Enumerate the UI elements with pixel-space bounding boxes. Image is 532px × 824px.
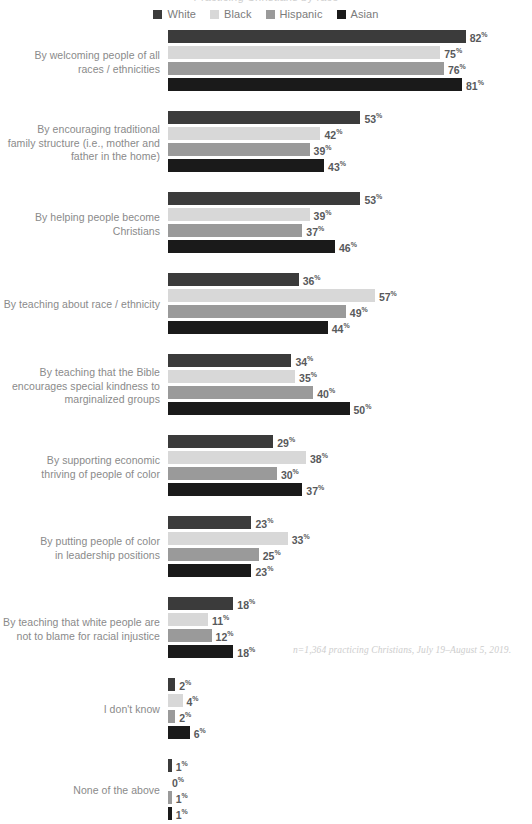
bar-row[interactable]: 2% <box>168 710 532 723</box>
bar-row[interactable]: 18% <box>168 597 532 610</box>
category-label: None of the above <box>0 784 160 798</box>
bar-chart-plot: By welcoming people of allraces / ethnic… <box>0 30 532 824</box>
bar-value-label: 34% <box>295 352 313 369</box>
percent-sign: % <box>181 792 187 799</box>
bar-row[interactable]: 11% <box>168 613 532 626</box>
bar-value-label: 37% <box>306 481 324 498</box>
bar-value-label: 11% <box>212 611 229 628</box>
bar-row[interactable]: 39% <box>168 208 532 221</box>
bar-value-number: 37 <box>306 226 318 238</box>
bar-row[interactable]: 33% <box>168 532 532 545</box>
bar-value-number: 18 <box>237 647 249 659</box>
bar-value-label: 33% <box>292 530 310 547</box>
bar-value-number: 46 <box>339 242 351 254</box>
legend-item-hispanic[interactable]: Hispanic <box>266 8 323 20</box>
bar-value-label: 25% <box>263 546 281 563</box>
bar-value-label: 1% <box>176 789 188 806</box>
bar-row[interactable]: 34% <box>168 354 532 367</box>
bar-asian <box>168 645 233 658</box>
category-label-line: in leadership positions <box>0 549 160 563</box>
bar-row[interactable]: 39% <box>168 143 532 156</box>
bar-row[interactable]: 30% <box>168 467 532 480</box>
bar-value-label: 23% <box>255 562 273 579</box>
category-label-line: Christians <box>0 225 160 239</box>
bar-row[interactable]: 40% <box>168 386 532 399</box>
bar-row[interactable]: 46% <box>168 240 532 253</box>
bar-row[interactable]: 2% <box>168 678 532 691</box>
bar-value-number: 81 <box>466 80 478 92</box>
bar-row[interactable]: 4% <box>168 694 532 707</box>
legend-swatch-icon <box>266 10 275 19</box>
bar-row[interactable]: 6% <box>168 726 532 739</box>
bar-row[interactable]: 82% <box>168 30 532 43</box>
bar-row[interactable]: 23% <box>168 564 532 577</box>
bar-asian <box>168 807 172 820</box>
bar-row[interactable]: 81% <box>168 78 532 91</box>
bar-hispanic <box>168 629 212 642</box>
bar-row[interactable]: 1% <box>168 807 532 820</box>
legend-item-white[interactable]: White <box>153 8 196 20</box>
bar-value-label: 2% <box>179 676 191 693</box>
bar-value-number: 11 <box>212 615 223 627</box>
bar-black <box>168 46 440 59</box>
bar-value-label: 82% <box>470 28 488 45</box>
percent-sign: % <box>307 355 313 362</box>
bar-white <box>168 111 360 124</box>
bar-row[interactable]: 37% <box>168 483 532 496</box>
bar-row[interactable]: 37% <box>168 224 532 237</box>
bar-row[interactable]: 76% <box>168 62 532 75</box>
bar-hispanic <box>168 143 310 156</box>
bar-black <box>168 370 295 383</box>
bar-group: By helping people becomeChristians53%39%… <box>0 192 532 273</box>
legend-swatch-icon <box>337 10 346 19</box>
bar-row[interactable]: 49% <box>168 305 532 318</box>
percent-sign: % <box>303 533 309 540</box>
bar-row[interactable]: 53% <box>168 111 532 124</box>
bar-value-label: 1% <box>176 757 188 774</box>
bar-white <box>168 273 299 286</box>
bar-value-label: 43% <box>328 157 346 174</box>
percent-sign: % <box>267 565 273 572</box>
bar-row[interactable]: 1% <box>168 791 532 804</box>
percent-sign: % <box>376 193 382 200</box>
bar-group: By teaching about race / ethnicity36%57%… <box>0 273 532 354</box>
bar-row[interactable]: 44% <box>168 321 532 334</box>
bar-row[interactable]: 75% <box>168 46 532 59</box>
bar-row[interactable]: 23% <box>168 516 532 529</box>
bar-row[interactable]: 25% <box>168 548 532 561</box>
bar-hispanic <box>168 62 444 75</box>
bar-value-label: 18% <box>237 595 255 612</box>
category-label: By teaching about race / ethnicity <box>0 298 160 312</box>
bar-value-label: 23% <box>255 514 273 531</box>
legend-item-black[interactable]: Black <box>210 8 251 20</box>
bar-row[interactable]: 12% <box>168 629 532 642</box>
category-label: By welcoming people of allraces / ethnic… <box>0 49 160 76</box>
bar-row[interactable]: 29% <box>168 435 532 448</box>
bar-value-label: 75% <box>444 44 462 61</box>
bar-row[interactable]: 36% <box>168 273 532 286</box>
bar-row[interactable]: 38% <box>168 451 532 464</box>
bar-row[interactable]: 1% <box>168 759 532 772</box>
bar-row[interactable]: 50% <box>168 402 532 415</box>
bar-row[interactable]: 0% <box>168 775 532 788</box>
bar-row[interactable]: 57% <box>168 289 532 302</box>
bar-row[interactable]: 43% <box>168 159 532 172</box>
bar-value-label: 1% <box>176 805 188 822</box>
bar-value-label: 12% <box>216 627 234 644</box>
percent-sign: % <box>391 290 397 297</box>
bar-value-number: 34 <box>295 356 307 368</box>
bar-row[interactable]: 42% <box>168 127 532 140</box>
bar-value-number: 29 <box>277 437 289 449</box>
bar-row[interactable]: 53% <box>168 192 532 205</box>
bar-value-label: 39% <box>314 206 332 223</box>
bar-asian <box>168 240 335 253</box>
bar-value-number: 39 <box>314 145 326 157</box>
legend-item-asian[interactable]: Asian <box>337 8 379 20</box>
category-label-line: not to blame for racial injustice <box>0 630 160 644</box>
bar-white <box>168 30 466 43</box>
category-label-line: races / ethnicities <box>0 63 160 77</box>
bar-row[interactable]: 35% <box>168 370 532 383</box>
percent-sign: % <box>478 79 484 86</box>
bar-asian <box>168 564 251 577</box>
bar-value-label: 46% <box>339 238 357 255</box>
